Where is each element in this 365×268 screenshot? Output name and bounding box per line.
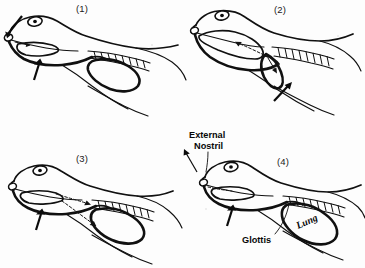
panel-1-number: (1) bbox=[76, 3, 88, 14]
pupil bbox=[229, 165, 233, 169]
paper-speck bbox=[337, 35, 339, 37]
external-nostril-label-line-1: External bbox=[189, 130, 225, 140]
pupil bbox=[33, 20, 37, 24]
frog-breathing-diagram: (1) bbox=[0, 0, 365, 268]
diagram-canvas: (1) bbox=[0, 0, 365, 268]
glottis-label: Glottis bbox=[242, 235, 271, 245]
panel-4-number: (4) bbox=[277, 156, 289, 167]
paper-speck bbox=[205, 208, 207, 210]
external-nostril-label-line-2: Nostril bbox=[194, 141, 223, 151]
paper-speck bbox=[151, 44, 153, 46]
pupil bbox=[38, 169, 42, 173]
panel-3-number: (3) bbox=[76, 153, 88, 164]
panel-2-number: (2) bbox=[274, 4, 286, 15]
pupil bbox=[220, 14, 224, 18]
